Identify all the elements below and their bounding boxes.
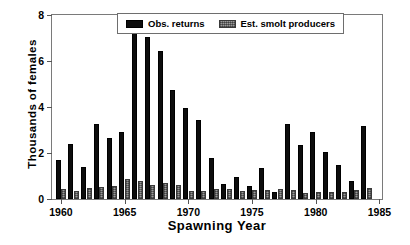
black-bar-swatch-icon — [126, 20, 143, 28]
bar-obs-returns-1960 — [56, 160, 61, 199]
bar-obs-returns-1962 — [81, 167, 86, 199]
x-tick-1970 — [188, 199, 189, 204]
y-tick-label-4: 4 — [38, 101, 44, 113]
bar-est-smolt-producers-1963 — [99, 187, 104, 199]
bar-obs-returns-1984 — [361, 126, 366, 199]
bar-obs-returns-1970 — [183, 108, 188, 199]
bar-est-smolt-producers-1972 — [214, 189, 219, 199]
y-tick-label-2: 2 — [38, 147, 44, 159]
bar-obs-returns-1974 — [234, 177, 239, 199]
x-tick-1960 — [61, 199, 62, 204]
y-tick-4 — [47, 107, 52, 108]
x-tick-label-1965: 1965 — [113, 206, 136, 218]
x-tick-1980 — [316, 199, 317, 204]
bar-est-smolt-producers-1973 — [227, 189, 232, 199]
bar-obs-returns-1961 — [68, 144, 73, 199]
x-tick-1965 — [125, 199, 126, 204]
bar-est-smolt-producers-1981 — [329, 192, 334, 199]
bar-est-smolt-producers-1964 — [112, 186, 117, 199]
x-tick-label-1970: 1970 — [177, 206, 200, 218]
bar-est-smolt-producers-1968 — [163, 183, 168, 199]
x-tick-label-1960: 1960 — [49, 206, 72, 218]
bar-obs-returns-1980 — [310, 132, 315, 199]
y-tick-8 — [47, 15, 52, 16]
x-axis-title: Spawning Year — [51, 218, 383, 233]
bar-obs-returns-1976 — [259, 168, 264, 199]
bar-est-smolt-producers-1965 — [125, 179, 130, 199]
bar-group — [52, 15, 382, 199]
legend-label-obs-returns: Obs. returns — [148, 18, 205, 29]
bar-est-smolt-producers-1962 — [87, 188, 92, 199]
bar-est-smolt-producers-1979 — [303, 193, 308, 199]
x-tick-1985 — [379, 199, 380, 204]
bar-est-smolt-producers-1974 — [240, 191, 245, 200]
x-tick-label-1975: 1975 — [240, 206, 263, 218]
figure-container: Thousands of females 0246819601965197019… — [0, 0, 410, 245]
y-tick-label-8: 8 — [38, 9, 44, 21]
bar-obs-returns-1972 — [209, 158, 214, 199]
bar-obs-returns-1966 — [132, 23, 137, 199]
bar-obs-returns-1964 — [107, 138, 112, 199]
y-tick-label-0: 0 — [38, 193, 44, 205]
bar-obs-returns-1963 — [94, 124, 99, 199]
bar-obs-returns-1971 — [196, 120, 201, 199]
bar-est-smolt-producers-1978 — [291, 190, 296, 199]
bar-obs-returns-1973 — [221, 184, 226, 199]
bar-est-smolt-producers-1970 — [189, 191, 194, 199]
chart-legend: Obs. returns Est. smolt producers — [117, 13, 344, 34]
bar-obs-returns-1968 — [158, 51, 163, 199]
y-tick-2 — [47, 153, 52, 154]
bar-est-smolt-producers-1976 — [265, 190, 270, 199]
bar-est-smolt-producers-1982 — [342, 192, 347, 199]
bar-obs-returns-1979 — [298, 145, 303, 199]
y-tick-label-6: 6 — [38, 55, 44, 67]
gray-stippled-bar-swatch-icon — [219, 20, 236, 28]
x-tick-label-1980: 1980 — [304, 206, 327, 218]
bar-est-smolt-producers-1961 — [74, 191, 79, 199]
legend-item-est-smolt-producers: Est. smolt producers — [219, 18, 336, 29]
bar-est-smolt-producers-1980 — [316, 192, 321, 199]
bar-obs-returns-1969 — [170, 90, 175, 199]
bar-obs-returns-1978 — [285, 124, 290, 199]
y-tick-0 — [47, 199, 52, 200]
y-tick-6 — [47, 61, 52, 62]
y-axis-title: Thousands of females — [26, 14, 38, 194]
x-tick-1975 — [252, 199, 253, 204]
bar-est-smolt-producers-1975 — [252, 190, 257, 199]
bar-est-smolt-producers-1966 — [138, 181, 143, 199]
plot-area: 02468196019651970197519801985 — [51, 14, 383, 200]
bar-obs-returns-1977 — [272, 192, 277, 199]
bar-est-smolt-producers-1971 — [201, 191, 206, 199]
bar-est-smolt-producers-1983 — [354, 190, 359, 199]
bar-obs-returns-1965 — [119, 132, 124, 199]
legend-label-est-smolt-producers: Est. smolt producers — [241, 18, 336, 29]
bar-est-smolt-producers-1960 — [61, 189, 66, 199]
bar-obs-returns-1981 — [323, 152, 328, 199]
legend-item-obs-returns: Obs. returns — [126, 18, 205, 29]
x-tick-label-1985: 1985 — [368, 206, 391, 218]
bar-est-smolt-producers-1967 — [150, 185, 155, 199]
bar-est-smolt-producers-1969 — [176, 185, 181, 199]
bar-obs-returns-1975 — [247, 186, 252, 199]
bar-obs-returns-1967 — [145, 37, 150, 199]
bar-est-smolt-producers-1977 — [278, 189, 283, 199]
bar-est-smolt-producers-1984 — [367, 188, 372, 199]
bar-obs-returns-1982 — [336, 165, 341, 199]
bar-obs-returns-1983 — [349, 181, 354, 199]
